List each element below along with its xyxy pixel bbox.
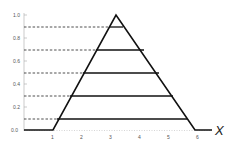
x-tick: 3 (109, 134, 112, 140)
y-tick: 1.0 (13, 12, 20, 18)
x-tick: 1 (51, 134, 54, 140)
x-tick: 4 (138, 134, 141, 140)
x-axis-label: X (214, 123, 225, 138)
y-tick-labels: 0.0 0.2 0.4 0.6 0.8 1.0 (11, 12, 20, 133)
x-tick: 5 (167, 134, 170, 140)
x-tick-labels: 1 2 3 4 5 6 (51, 134, 199, 140)
membership-diagram: 0.0 0.2 0.4 0.6 0.8 1.0 1 2 3 4 5 6 (0, 0, 237, 151)
x-tick: 6 (196, 134, 199, 140)
y-tick: 0.8 (13, 35, 20, 41)
y-tick: 0.0 (11, 127, 18, 133)
y-tick: 0.2 (13, 104, 20, 110)
y-tick: 0.4 (13, 81, 20, 87)
x-tick: 2 (80, 134, 83, 140)
y-tick: 0.6 (13, 58, 20, 64)
